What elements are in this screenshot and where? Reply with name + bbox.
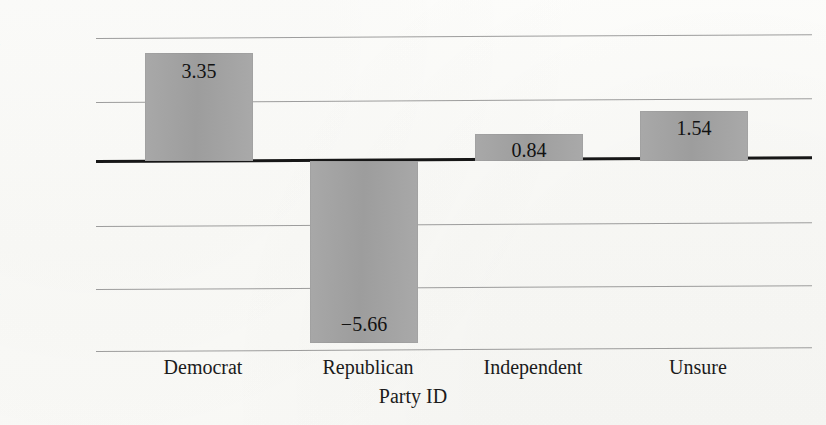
gridline--4	[96, 285, 812, 290]
xtick-label-unsure: Unsure	[586, 357, 810, 377]
bar-value-democrat: 3.35	[145, 61, 253, 81]
chart-figure: 4 2 0 −2 −4 −6 Migrant (%) – Native (%) …	[0, 0, 826, 425]
y-axis-title: Migrant (%) – Native (%)	[87, 0, 115, 48]
bar-value-unsure: 1.54	[640, 118, 748, 138]
plot-area: 4 2 0 −2 −4 −6 Migrant (%) – Native (%) …	[96, 20, 812, 350]
gridline--6	[96, 347, 812, 352]
x-axis-title: Party ID	[0, 385, 826, 408]
gridline-4	[96, 34, 812, 39]
bar-value-republican: −5.66	[310, 314, 418, 334]
gridline--2	[96, 222, 812, 227]
bar-value-independent: 0.84	[475, 140, 583, 160]
